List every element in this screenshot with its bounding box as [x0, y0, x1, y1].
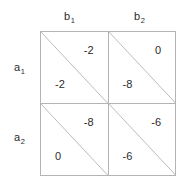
- row-header-a1-base: a: [14, 61, 20, 73]
- payoff-matrix-figure: b1 b2 a1 a2 -2 -2 0 -8 -8 0 -6 -6: [0, 0, 183, 184]
- row-header-a2-subscript: 2: [21, 137, 25, 146]
- matrix-grid: -2 -2 0 -8 -8 0 -6 -6: [40, 31, 176, 176]
- column-header-b1-subscript: 1: [71, 16, 75, 25]
- column-header-b1-base: b: [64, 10, 70, 22]
- matrix-cell-a2-b1: -8 0: [41, 104, 109, 176]
- row-header-a1-subscript: 1: [21, 67, 25, 76]
- row-header-a2: a2: [14, 132, 25, 143]
- matrix-cell-a2-b2: -6 -6: [109, 104, 177, 176]
- column-header-b2-base: b: [134, 10, 140, 22]
- cell-diagonal-icon: [41, 104, 108, 175]
- row-header-a2-base: a: [14, 131, 20, 143]
- payoff-a2-b1-row-player: 0: [55, 151, 61, 162]
- cell-diagonal-icon: [109, 104, 176, 175]
- cell-diagonal-icon: [41, 32, 108, 103]
- column-header-b2: b2: [134, 11, 145, 22]
- payoff-a1-b1-column-player: -2: [84, 45, 94, 56]
- payoff-a1-b1-row-player: -2: [55, 79, 65, 90]
- matrix-cell-a1-b2: 0 -8: [109, 32, 177, 104]
- payoff-a2-b2-row-player: -6: [123, 151, 133, 162]
- column-header-b2-subscript: 2: [141, 16, 145, 25]
- column-header-b1: b1: [64, 11, 75, 22]
- payoff-a2-b2-column-player: -6: [151, 117, 161, 128]
- row-header-a1: a1: [14, 62, 25, 73]
- payoff-a1-b2-row-player: -8: [123, 79, 133, 90]
- payoff-a1-b2-column-player: 0: [155, 45, 161, 56]
- matrix-cell-a1-b1: -2 -2: [41, 32, 109, 104]
- payoff-a2-b1-column-player: -8: [84, 117, 94, 128]
- cell-diagonal-icon: [109, 32, 176, 103]
